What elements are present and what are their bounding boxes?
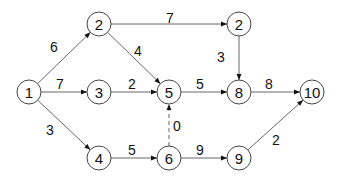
edge-1-to-2: 6	[38, 32, 91, 83]
edge-weight-label: 5	[196, 76, 204, 92]
edge-weight-label: 4	[134, 43, 142, 59]
node-10: 10	[300, 80, 324, 104]
node-label: 5	[165, 84, 173, 101]
edge-weight-label: 3	[46, 122, 54, 138]
edge-2-to-2: 7	[111, 10, 227, 26]
diagram-svg: 6737425385092 12352810469	[0, 0, 339, 178]
node-1: 1	[17, 80, 41, 104]
edge-weight-label: 0	[173, 118, 181, 134]
node-label: 1	[25, 84, 33, 101]
node-2: 2	[87, 12, 111, 36]
node-3: 3	[87, 80, 111, 104]
edge-2-to-8: 3	[217, 36, 239, 80]
node-6: 6	[157, 146, 181, 170]
node-label: 10	[304, 84, 321, 101]
edge-weight-label: 9	[196, 142, 204, 158]
edge-4-to-6: 5	[111, 142, 157, 158]
edge-9-to-10: 2	[248, 100, 303, 150]
arrow-line	[38, 32, 91, 83]
node-label: 9	[235, 150, 243, 167]
node-label: 4	[95, 150, 103, 167]
node-2: 2	[227, 12, 251, 36]
edge-6-to-9: 9	[181, 142, 227, 158]
node-4: 4	[87, 146, 111, 170]
edge-1-to-3: 7	[41, 76, 87, 92]
edge-weight-label: 7	[166, 10, 174, 26]
edge-8-to-10: 8	[251, 76, 300, 92]
edge-weight-label: 2	[128, 76, 136, 92]
edge-5-to-8: 5	[181, 76, 227, 92]
edge-weight-label: 2	[272, 132, 280, 148]
node-label: 6	[165, 150, 173, 167]
edge-weight-label: 8	[265, 76, 273, 92]
edge-weight-label: 6	[50, 39, 58, 55]
edge-weight-label: 3	[217, 49, 225, 65]
node-label: 3	[95, 84, 103, 101]
node-9: 9	[227, 146, 251, 170]
node-8: 8	[227, 80, 251, 104]
node-label: 2	[235, 16, 243, 33]
node-label: 2	[95, 16, 103, 33]
node-label: 8	[235, 84, 243, 101]
network-diagram: 6737425385092 12352810469	[0, 0, 339, 178]
node-5: 5	[157, 80, 181, 104]
edge-6-to-5: 0	[169, 104, 181, 146]
edge-1-to-4: 3	[38, 100, 91, 150]
edge-3-to-5: 2	[111, 76, 157, 92]
edge-weight-label: 7	[56, 76, 64, 92]
edge-weight-label: 5	[128, 142, 136, 158]
